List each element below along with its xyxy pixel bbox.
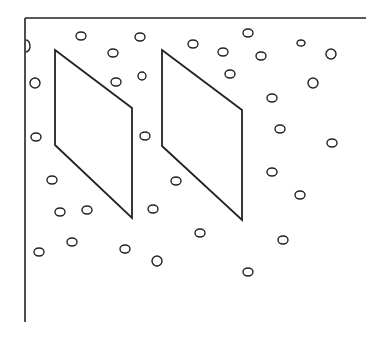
small-circle	[67, 238, 77, 246]
small-circle	[140, 132, 150, 140]
small-circle	[135, 33, 145, 41]
small-circle	[256, 52, 266, 60]
small-circle	[171, 177, 181, 185]
small-circle	[138, 72, 146, 80]
parallelogram-right-panel	[162, 50, 242, 220]
edge-half-circle	[26, 40, 30, 52]
small-circle	[108, 49, 118, 57]
small-circle	[225, 70, 235, 78]
parallelogram-left-panel	[55, 50, 132, 218]
small-circle	[195, 229, 205, 237]
small-circle	[267, 168, 277, 176]
small-circle	[152, 256, 162, 266]
small-circle	[275, 125, 285, 133]
small-circle	[243, 29, 253, 37]
frame	[25, 18, 366, 322]
small-circle	[30, 78, 40, 88]
small-circle	[297, 40, 305, 46]
small-circle	[188, 40, 198, 48]
small-circle	[308, 78, 318, 88]
small-circle	[111, 78, 121, 86]
small-circle	[31, 133, 41, 141]
diagram-canvas	[0, 0, 373, 339]
small-circle	[327, 139, 337, 147]
small-circle	[76, 32, 86, 40]
parallelograms	[55, 50, 242, 220]
small-circle	[82, 206, 92, 214]
small-circle	[47, 176, 57, 184]
small-circle	[120, 245, 130, 253]
small-circle	[326, 49, 336, 59]
small-circle	[295, 191, 305, 199]
small-circle	[148, 205, 158, 213]
small-circle	[243, 268, 253, 276]
small-circle	[278, 236, 288, 244]
small-circle	[218, 48, 228, 56]
small-circle	[55, 208, 65, 216]
small-circle	[267, 94, 277, 102]
small-circle	[34, 248, 44, 256]
